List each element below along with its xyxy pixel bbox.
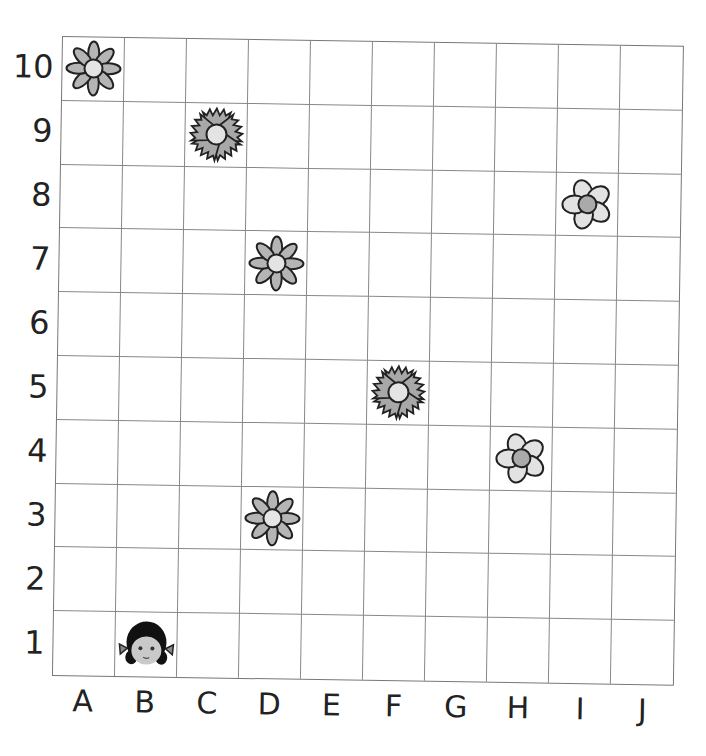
grid-cell-A10[interactable] xyxy=(62,37,125,102)
grid-cell-G5[interactable] xyxy=(429,362,492,427)
grid-cell-I7[interactable] xyxy=(555,236,618,301)
grid-cell-C5[interactable] xyxy=(181,358,244,423)
grid-cell-I5[interactable] xyxy=(553,364,616,429)
grid-cell-J4[interactable] xyxy=(614,429,677,494)
grid-cell-F1[interactable] xyxy=(363,616,426,681)
grid-cell-E3[interactable] xyxy=(303,487,366,552)
grid-cell-D3[interactable] xyxy=(241,486,304,551)
grid-cell-C3[interactable] xyxy=(179,486,242,551)
grid-cell-J8[interactable] xyxy=(618,173,681,238)
grid-cell-D7[interactable] xyxy=(245,231,308,296)
grid-cell-G10[interactable] xyxy=(434,43,497,108)
grid-cell-A8[interactable] xyxy=(60,165,123,230)
grid-cell-B1[interactable] xyxy=(115,612,178,677)
grid-cell-E6[interactable] xyxy=(306,296,369,361)
grid-cell-J2[interactable] xyxy=(612,556,675,621)
grid-cell-C4[interactable] xyxy=(180,422,243,487)
grid-cell-E9[interactable] xyxy=(309,105,372,170)
grid-cell-H2[interactable] xyxy=(488,554,551,619)
grid-cell-D4[interactable] xyxy=(242,423,305,488)
grid-cell-A9[interactable] xyxy=(61,101,124,166)
grid-cell-G2[interactable] xyxy=(426,553,489,618)
grid-cell-B4[interactable] xyxy=(118,421,181,486)
grid-cell-D9[interactable] xyxy=(247,104,310,169)
grid-cell-E5[interactable] xyxy=(305,360,368,425)
grid-cell-D8[interactable] xyxy=(246,168,309,233)
grid-cell-F9[interactable] xyxy=(371,106,434,171)
grid-cell-A5[interactable] xyxy=(57,356,120,421)
grid-cell-H5[interactable] xyxy=(491,363,554,428)
grid-cell-D6[interactable] xyxy=(244,295,307,360)
grid-cell-H10[interactable] xyxy=(496,44,559,109)
grid-cell-B6[interactable] xyxy=(120,293,183,358)
grid-cell-B10[interactable] xyxy=(124,38,187,103)
grid-cell-I6[interactable] xyxy=(554,300,617,365)
grid-cell-J3[interactable] xyxy=(613,492,676,557)
grid-cell-F8[interactable] xyxy=(370,169,433,234)
grid-cell-J1[interactable] xyxy=(611,620,674,685)
grid-cell-J7[interactable] xyxy=(617,237,680,302)
grid-cell-J6[interactable] xyxy=(616,301,679,366)
grid-cell-A3[interactable] xyxy=(55,484,118,549)
grid-cell-D5[interactable] xyxy=(243,359,306,424)
grid-cell-D1[interactable] xyxy=(239,614,302,679)
grid-cell-A6[interactable] xyxy=(58,292,121,357)
grid-cell-A2[interactable] xyxy=(54,547,117,612)
grid-cell-A7[interactable] xyxy=(59,228,122,293)
grid-cell-F5[interactable] xyxy=(367,361,430,426)
grid-cell-H8[interactable] xyxy=(494,171,557,236)
grid-cell-G7[interactable] xyxy=(431,234,494,299)
grid-cell-E1[interactable] xyxy=(301,615,364,680)
grid-cell-E7[interactable] xyxy=(307,232,370,297)
grid-cell-J10[interactable] xyxy=(620,46,683,111)
grid-cell-B8[interactable] xyxy=(122,166,185,231)
grid-cell-F6[interactable] xyxy=(368,297,431,362)
grid-cell-D2[interactable] xyxy=(240,550,303,615)
grid-cell-I9[interactable] xyxy=(557,109,620,174)
grid-cell-G9[interactable] xyxy=(433,107,496,172)
grid-cell-F10[interactable] xyxy=(372,42,435,107)
grid-cell-C1[interactable] xyxy=(177,613,240,678)
grid-cell-J9[interactable] xyxy=(619,110,682,175)
grid-cell-H6[interactable] xyxy=(492,299,555,364)
grid-cell-I4[interactable] xyxy=(552,428,615,493)
grid-cell-J5[interactable] xyxy=(615,365,678,430)
grid-cell-I3[interactable] xyxy=(551,491,614,556)
grid-cell-I8[interactable] xyxy=(556,172,619,237)
grid-cell-C8[interactable] xyxy=(184,167,247,232)
grid-cell-B3[interactable] xyxy=(117,485,180,550)
grid-cell-A4[interactable] xyxy=(56,420,119,485)
grid-cell-I10[interactable] xyxy=(558,45,621,110)
grid-cell-F3[interactable] xyxy=(365,488,428,553)
grid-cell-E10[interactable] xyxy=(310,41,373,106)
grid-cell-C9[interactable] xyxy=(185,103,248,168)
grid-cell-G6[interactable] xyxy=(430,298,493,363)
grid-cell-F4[interactable] xyxy=(366,425,429,490)
grid-cell-H7[interactable] xyxy=(493,235,556,300)
grid-cell-B7[interactable] xyxy=(121,229,184,294)
grid-cell-F2[interactable] xyxy=(364,552,427,617)
grid-cell-C2[interactable] xyxy=(178,549,241,614)
grid-cell-H4[interactable] xyxy=(490,427,553,492)
grid-cell-I1[interactable] xyxy=(549,619,612,684)
grid-cell-C7[interactable] xyxy=(183,230,246,295)
grid-cell-G8[interactable] xyxy=(432,170,495,235)
grid-cell-B2[interactable] xyxy=(116,548,179,613)
grid-cell-H9[interactable] xyxy=(495,108,558,173)
grid-cell-E2[interactable] xyxy=(302,551,365,616)
grid-cell-H1[interactable] xyxy=(487,618,550,683)
grid-cell-I2[interactable] xyxy=(550,555,613,620)
grid-cell-B5[interactable] xyxy=(119,357,182,422)
grid-cell-C6[interactable] xyxy=(182,294,245,359)
grid-cell-A1[interactable] xyxy=(53,611,116,676)
grid-cell-H3[interactable] xyxy=(489,490,552,555)
grid-cell-G1[interactable] xyxy=(425,617,488,682)
grid-cell-C10[interactable] xyxy=(186,39,249,104)
grid-cell-G3[interactable] xyxy=(427,489,490,554)
grid-cell-B9[interactable] xyxy=(123,102,186,167)
grid-cell-E8[interactable] xyxy=(308,168,371,233)
grid-cell-E4[interactable] xyxy=(304,424,367,489)
grid-cell-G4[interactable] xyxy=(428,426,491,491)
grid-cell-D10[interactable] xyxy=(248,40,311,105)
grid-cell-F7[interactable] xyxy=(369,233,432,298)
